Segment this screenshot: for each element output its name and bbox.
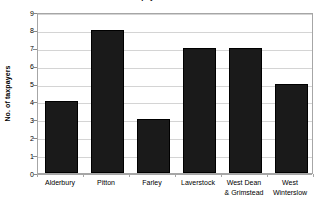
bar <box>183 48 216 173</box>
x-tick-mark-1 <box>83 174 84 177</box>
bar <box>275 84 308 173</box>
x-tick-mark-0 <box>37 174 38 177</box>
y-axis-title-text: No. of taxpayers <box>4 65 11 121</box>
bars-layer <box>38 14 312 173</box>
x-axis-label-line: Pitton <box>97 179 115 186</box>
chart-title: Taxpayers in 1576 <box>0 0 322 2</box>
bar <box>229 48 262 173</box>
bar <box>45 101 78 173</box>
bar <box>137 119 170 173</box>
bar <box>91 30 124 173</box>
x-axis-label-line: Winterslow <box>267 188 313 198</box>
x-axis-label-line: & Grimstead <box>221 188 267 198</box>
x-tick-mark-4 <box>221 174 222 177</box>
x-axis-label: Alderbury <box>37 178 83 188</box>
x-axis-label: WestWinterslow <box>267 178 313 197</box>
y-axis-title: No. of taxpayers <box>0 13 14 174</box>
x-axis-category-labels: AlderburyPittonFarleyLaverstockWest Dean… <box>37 178 313 208</box>
x-axis-label: Laverstock <box>175 178 221 188</box>
x-axis-label-line: Farley <box>142 179 161 186</box>
x-axis-label-line: West <box>282 179 298 186</box>
x-tick-mark-6 <box>313 174 314 177</box>
x-tick-mark-3 <box>175 174 176 177</box>
x-axis-label: Farley <box>129 178 175 188</box>
x-axis-label-line: West Dean <box>227 179 262 186</box>
plot-area <box>37 13 313 174</box>
x-tick-mark-2 <box>129 174 130 177</box>
x-axis-label-line: Alderbury <box>45 179 75 186</box>
x-tick-mark-5 <box>267 174 268 177</box>
x-axis-label-line: Laverstock <box>181 179 215 186</box>
x-axis-label: Pitton <box>83 178 129 188</box>
x-axis-label: West Dean& Grimstead <box>221 178 267 197</box>
